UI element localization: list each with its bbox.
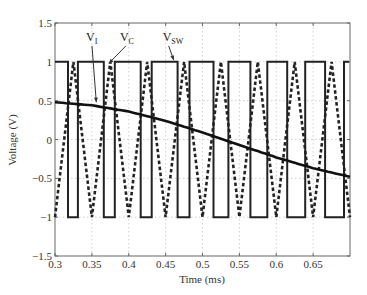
y-tick-label: −1.5 (32, 250, 52, 262)
y-axis-label: Voltage (V) (6, 114, 19, 166)
y-tick-label: 1 (47, 56, 53, 68)
annotation-sw: VSW (163, 30, 184, 46)
y-tick-label: 1.5 (38, 17, 52, 29)
arrowhead-icon (170, 55, 174, 60)
x-tick-label: 0.65 (304, 258, 324, 270)
y-tick-label: −0.5 (32, 172, 52, 184)
arrowhead-icon (94, 97, 98, 102)
x-tick-label: 0.35 (82, 258, 102, 270)
axis-ticks: 0.30.350.40.450.50.550.60.65−1.5−1−0.500… (32, 17, 350, 270)
x-tick-label: 0.4 (122, 258, 136, 270)
annotation-i: VI (86, 30, 98, 46)
x-tick-label: 0.6 (269, 258, 283, 270)
chart: 0.30.350.40.450.50.550.60.65−1.5−1−0.500… (0, 0, 367, 295)
y-tick-label: 0.5 (38, 95, 52, 107)
x-axis-label: Time (ms) (179, 273, 225, 286)
annotation-c: VC (120, 30, 134, 46)
annotation-arrow (92, 46, 96, 102)
x-tick-label: 0.5 (196, 258, 210, 270)
y-tick-label: 0 (47, 134, 53, 146)
x-tick-label: 0.45 (156, 258, 176, 270)
annotations: VIVCVSW (86, 30, 184, 102)
y-tick-label: −1 (40, 211, 52, 223)
x-tick-label: 0.55 (230, 258, 250, 270)
